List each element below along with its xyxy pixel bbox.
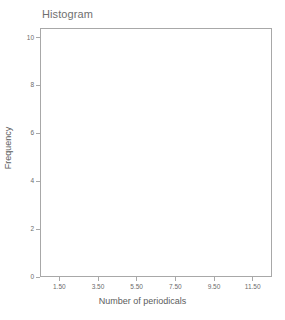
y-axis-tick-label: 10: [27, 33, 34, 42]
x-axis-tick-mark: [59, 277, 60, 281]
x-axis-tick-label: 1.50: [39, 282, 79, 291]
x-axis-tick-mark: [214, 277, 215, 281]
x-axis-tick-mark: [136, 277, 137, 281]
x-axis-tick-label: 9.50: [194, 282, 234, 291]
x-axis-tick-mark: [252, 277, 253, 281]
y-axis-tick-label: 2: [30, 224, 34, 233]
x-axis-tick-mark: [98, 277, 99, 281]
chart-title: Histogram: [42, 8, 93, 20]
y-axis-title: Frequency: [3, 113, 13, 183]
y-axis-tick-label: 0: [30, 272, 34, 281]
y-axis-tick-label: 8: [30, 80, 34, 89]
x-axis-tick-label: 5.50: [117, 282, 157, 291]
histogram-chart: Histogram Frequency 0246810 1.503.505.50…: [0, 0, 285, 320]
plot-area: [41, 29, 271, 276]
x-axis-tick-mark: [175, 277, 176, 281]
x-axis-tick-label: 7.50: [155, 282, 195, 291]
y-axis-tick-label: 4: [30, 176, 34, 185]
x-axis-tick-label: 3.50: [78, 282, 118, 291]
y-axis-tick-label: 6: [30, 128, 34, 137]
x-axis-tick-label: 11.50: [233, 282, 273, 291]
x-axis-title: Number of periodicals: [0, 296, 285, 306]
